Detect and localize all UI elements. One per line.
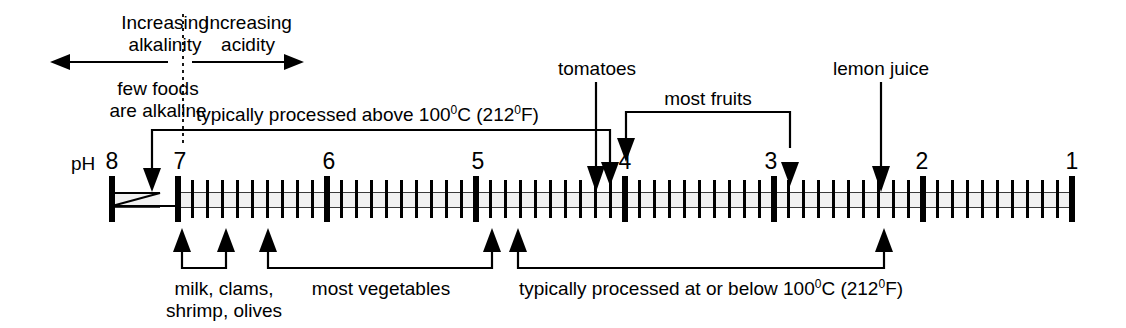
few-foods-alkaline-line1: few foods <box>117 78 198 100</box>
annotation-processed-at-or-below-label: typically processed at or below 1000C (2… <box>519 278 903 300</box>
tick-minor <box>951 180 954 218</box>
annotation-milk-clams-line1: milk, clams, <box>174 278 273 300</box>
tick-minor <box>1056 180 1059 218</box>
tick-minor <box>221 180 224 218</box>
processed-above-prefix: typically processed above 100 <box>196 104 451 125</box>
tick-minor <box>236 180 239 218</box>
tick-minor <box>519 180 522 218</box>
tick-minor <box>892 180 895 218</box>
tick-minor <box>817 180 820 218</box>
annotation-most-vegetables-label: most vegetables <box>312 278 450 300</box>
annotation-most-fruits-label: most fruits <box>664 88 752 110</box>
increasing-alkalinity-line2: alkalinity <box>129 34 202 56</box>
tick-label-2: 2 <box>916 150 929 173</box>
tick-minor <box>460 180 463 218</box>
tick-minor <box>594 180 597 218</box>
tick-minor <box>862 180 865 218</box>
tick-major <box>324 176 330 222</box>
tick-minor <box>445 180 448 218</box>
tick-minor <box>191 180 194 218</box>
most-vegetables-bracket <box>259 228 501 268</box>
processed-above-suffix: F) <box>521 104 539 125</box>
processed-above-degree-2: 0 <box>514 103 521 117</box>
tick-minor <box>340 180 343 218</box>
tick-minor <box>668 180 671 218</box>
processed-below-prefix: typically processed at or below 100 <box>519 278 815 299</box>
tick-minor <box>698 180 701 218</box>
tick-minor <box>847 180 850 218</box>
increasing-acidity-line2: acidity <box>221 34 275 56</box>
tick-minor <box>504 180 507 218</box>
acidity-arrow-icon <box>192 54 304 70</box>
tick-minor <box>579 180 582 218</box>
tick-minor <box>728 180 731 218</box>
tick-minor <box>996 180 999 218</box>
tick-label-6: 6 <box>323 150 336 173</box>
tick-minor <box>430 180 433 218</box>
processed-above-bracket <box>143 130 619 192</box>
tick-minor <box>415 180 418 218</box>
tick-minor <box>355 180 358 218</box>
tick-minor <box>981 180 984 218</box>
tick-minor <box>1026 180 1029 218</box>
tick-minor <box>296 180 299 218</box>
tick-minor <box>907 180 910 218</box>
tick-minor <box>564 180 567 218</box>
lemon-juice-arrow-icon <box>872 82 890 192</box>
tick-major <box>622 176 628 222</box>
tick-major <box>473 176 479 222</box>
tick-minor <box>400 180 403 218</box>
annotation-milk-clams-line2: shrimp, olives <box>166 300 282 322</box>
tick-minor <box>802 180 805 218</box>
tick-major <box>1069 176 1075 222</box>
tick-minor <box>311 180 314 218</box>
tick-minor <box>832 180 835 218</box>
tick-label-7: 7 <box>174 150 187 173</box>
milk-clams-bracket <box>173 228 235 268</box>
tick-minor <box>549 180 552 218</box>
tick-minor <box>489 180 492 218</box>
tick-minor <box>266 180 269 218</box>
ph-axis-label: pH <box>71 152 95 175</box>
tick-minor <box>936 180 939 218</box>
increasing-alkalinity-line1: Increasing <box>121 12 209 34</box>
tick-label-4: 4 <box>619 150 632 173</box>
tick-label-1: 1 <box>1066 150 1079 173</box>
tick-label-3: 3 <box>765 150 778 173</box>
tick-minor <box>683 180 686 218</box>
scale-end-bar-8 <box>109 176 115 222</box>
annotation-lemon-juice-label: lemon juice <box>833 58 929 80</box>
tick-minor <box>206 180 209 218</box>
tick-minor <box>758 180 761 218</box>
processed-below-suffix: F) <box>885 278 903 299</box>
tick-minor <box>653 180 656 218</box>
processed-below-mid: C (212 <box>821 278 878 299</box>
annotation-tomatoes-label: tomatoes <box>558 58 636 80</box>
processed-at-or-below-bracket <box>509 228 893 268</box>
tick-minor <box>534 180 537 218</box>
tick-minor <box>385 180 388 218</box>
tick-minor <box>609 180 612 218</box>
tick-minor <box>787 180 790 218</box>
few-foods-alkaline-line2: are alkaline <box>109 100 206 122</box>
tomatoes-arrow-icon <box>587 82 605 192</box>
tick-minor <box>1011 180 1014 218</box>
ruler-band-break-stub <box>112 192 160 208</box>
tick-major <box>771 176 777 222</box>
tick-label-5: 5 <box>472 150 485 173</box>
tick-minor <box>743 180 746 218</box>
tick-major <box>920 176 926 222</box>
tick-minor <box>1041 180 1044 218</box>
tick-minor <box>713 180 716 218</box>
tick-minor <box>966 180 969 218</box>
tick-minor <box>370 180 373 218</box>
tick-label-8: 8 <box>106 150 119 173</box>
ph-scale-diagram: Increasing alkalinity few foods are alka… <box>0 0 1126 328</box>
increasing-acidity-line1: Increasing <box>204 12 292 34</box>
tick-minor <box>251 180 254 218</box>
annotation-processed-above-label: typically processed above 1000C (2120F) <box>196 104 539 126</box>
tick-minor <box>877 180 880 218</box>
tick-major <box>175 176 181 222</box>
processed-above-mid: C (212 <box>457 104 514 125</box>
tick-minor <box>638 180 641 218</box>
